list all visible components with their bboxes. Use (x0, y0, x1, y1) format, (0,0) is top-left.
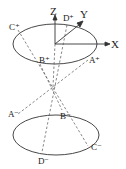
z-axis-label: Z (50, 5, 57, 17)
label-a-minus: A⁻ (8, 109, 20, 119)
x-axis-label: X (111, 38, 119, 50)
label-d-plus: D⁺ (63, 13, 75, 23)
y-axis-label: Y (80, 8, 88, 20)
label-c-minus: C⁻ (91, 142, 102, 152)
label-c-plus: C⁺ (9, 22, 20, 32)
label-b-plus: B⁺ (39, 55, 50, 65)
label-a-plus: A⁺ (89, 55, 101, 65)
double-cone-diagram: Z Y X C⁺ D⁺ B⁺ A⁺ A⁻ B⁻ C⁻ D⁻ (0, 0, 126, 169)
label-b-minus: B⁻ (60, 111, 71, 121)
bottom-ellipse (13, 115, 99, 155)
label-d-minus: D⁻ (38, 156, 50, 166)
